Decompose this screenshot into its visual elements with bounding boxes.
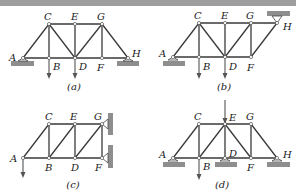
member-AC — [23, 124, 49, 158]
joint-D — [223, 156, 226, 159]
joint-G — [100, 22, 103, 25]
node-label-C: C — [45, 111, 53, 122]
node-label-E: E — [220, 10, 229, 21]
joint-E — [223, 21, 226, 24]
joint-A — [171, 156, 174, 159]
truss-panel-d: ABCDEFGH(d) — [158, 100, 292, 190]
support-ground-pad — [267, 11, 290, 16]
joint-B — [47, 156, 50, 159]
down-arrow-icon — [47, 73, 52, 79]
member-FH — [251, 23, 277, 57]
joint-G — [249, 122, 252, 125]
node-label-A: A — [158, 48, 166, 59]
member-CD — [199, 23, 225, 57]
truss-panel-c: ABCDEFG(c) — [9, 111, 113, 190]
joint-F — [100, 156, 103, 159]
panel-caption-c: (c) — [66, 179, 80, 190]
member-GH — [102, 24, 128, 58]
joint-F — [249, 55, 252, 58]
joint-F — [100, 56, 103, 59]
joint-F — [249, 156, 252, 159]
node-label-D: D — [228, 61, 237, 72]
member-BE — [49, 124, 75, 158]
truss-panel-b: ABCDEFGH(b) — [158, 10, 292, 92]
joint-C — [47, 122, 50, 125]
support-ground-pad — [163, 61, 185, 66]
joint-G — [100, 122, 103, 125]
node-label-B: B — [44, 162, 52, 173]
node-label-B: B — [202, 161, 210, 172]
node-label-D: D — [78, 61, 87, 72]
joint-H — [126, 56, 129, 59]
truss-panel-a: ABCDEFGH(a) — [8, 11, 141, 92]
member-GH — [251, 124, 277, 158]
support-ground-pad — [108, 145, 113, 168]
down-arrow-icon — [73, 73, 78, 79]
member-AC — [173, 23, 199, 57]
node-label-B: B — [202, 61, 210, 72]
support-ground-pad — [163, 162, 185, 167]
member-AC — [173, 124, 199, 158]
joint-E — [73, 22, 76, 25]
node-label-F: F — [246, 62, 255, 73]
member-DG — [75, 124, 102, 158]
node-label-A: A — [8, 52, 16, 63]
node-label-E: E — [70, 11, 79, 22]
joint-E — [223, 122, 226, 125]
node-label-A: A — [158, 149, 166, 160]
node-label-G: G — [97, 11, 105, 22]
joint-B — [47, 56, 50, 59]
joint-A — [171, 55, 174, 58]
joint-E — [73, 122, 76, 125]
joint-A — [21, 156, 24, 159]
node-label-C: C — [44, 11, 52, 22]
node-label-F: F — [94, 162, 103, 173]
node-label-F: F — [96, 62, 105, 73]
node-label-G: G — [246, 10, 254, 21]
member-AC — [23, 24, 49, 58]
support-ground-pad — [117, 61, 139, 66]
joint-D — [223, 55, 226, 58]
panel-caption-b: (b) — [217, 81, 231, 92]
support-ground-pad — [108, 113, 113, 135]
truss-diagrams-figure: ABCDEFGH(a) ABCDEFGH(b) ABCDEFG(c) ABCDE… — [0, 0, 296, 195]
down-arrow-icon — [21, 172, 26, 178]
down-arrow-icon — [197, 174, 202, 180]
member-CD — [49, 24, 75, 58]
panel-caption-d: (d) — [215, 179, 229, 190]
joint-A — [21, 56, 24, 59]
node-label-A: A — [9, 153, 17, 164]
joint-B — [197, 156, 200, 159]
node-label-B: B — [52, 61, 60, 72]
node-label-C: C — [194, 10, 202, 21]
node-label-E: E — [228, 112, 237, 123]
panel-caption-a: (a) — [67, 81, 81, 92]
node-label-G: G — [246, 111, 254, 122]
member-GD — [225, 23, 251, 57]
node-label-H: H — [282, 149, 292, 160]
joint-D — [73, 156, 76, 159]
node-label-H: H — [282, 21, 292, 32]
member-BE — [199, 124, 225, 158]
joint-G — [249, 21, 252, 24]
joint-B — [197, 55, 200, 58]
down-arrow-icon — [223, 73, 228, 79]
joint-D — [73, 56, 76, 59]
down-arrow-icon — [197, 73, 202, 79]
node-label-G: G — [94, 111, 102, 122]
node-label-C: C — [194, 111, 202, 122]
member-GD — [75, 24, 102, 58]
joint-C — [197, 122, 200, 125]
node-label-F: F — [246, 162, 255, 173]
joint-C — [197, 21, 200, 24]
joint-H — [275, 156, 278, 159]
node-label-D: D — [70, 162, 79, 173]
joint-C — [47, 22, 50, 25]
support-ground-pad — [267, 162, 290, 167]
support-ground-pad — [215, 162, 237, 167]
joint-H — [275, 21, 278, 24]
node-label-D: D — [228, 148, 237, 159]
node-label-H: H — [131, 48, 141, 59]
node-label-E: E — [69, 111, 78, 122]
